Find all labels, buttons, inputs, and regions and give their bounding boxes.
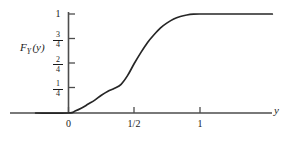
fraction-denominator: 4 [53,90,63,98]
y-axis-title: FY(y) [20,42,45,56]
x-tick-label-1-2: 1/2 [124,119,144,129]
plot-canvas [0,0,291,141]
y-tick-label-2-4: 2 4 [53,56,63,75]
y-tick-label-3-4: 3 4 [53,31,63,50]
fraction-numerator: 3 [53,31,63,39]
y-axis-title-base: F [20,41,27,53]
fraction-numerator: 1 [53,80,63,88]
y-axis-title-subscript: Y [27,47,31,56]
x-tick-label-1: 1 [195,119,205,129]
cdf-figure: FY(y) y 1 3 4 2 4 1 4 0 1/2 1 [0,0,291,141]
y-tick-label-1: 1 [53,9,63,19]
y-tick-label-1-4: 1 4 [53,80,63,99]
x-axis-variable-label: y [274,105,279,116]
y-axis-title-argument: (y) [32,41,44,53]
fraction-denominator: 4 [53,66,63,74]
fraction-numerator: 2 [53,56,63,64]
fraction-denominator: 4 [53,41,63,49]
x-tick-label-0: 0 [64,119,74,129]
